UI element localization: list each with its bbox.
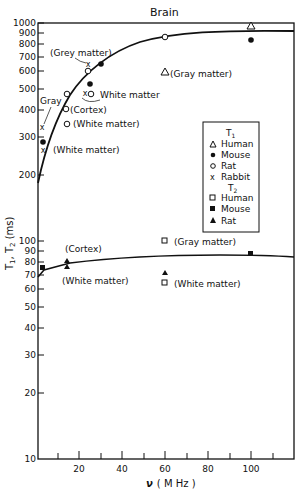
legend-open-circle-icon <box>211 164 216 169</box>
t1-human-marker <box>161 68 169 75</box>
legend-x-icon: x <box>210 173 215 182</box>
legend-open-square-icon <box>210 195 215 200</box>
y-tick-label: 200 <box>19 170 36 180</box>
legend: T1 Human Mouse Rat x Rabbit T2 Human Mou… <box>203 122 259 232</box>
t2-mouse-marker <box>248 251 253 256</box>
brain-relaxation-chart: Brain 1000 900 800 700 600 500 400 300 2… <box>0 0 306 499</box>
t1-rat-marker <box>85 68 91 74</box>
t1-rat-marker <box>88 91 94 97</box>
legend-item: Rat <box>221 216 237 226</box>
y-axis: 1000 900 800 700 600 500 400 300 200 100… <box>13 18 44 464</box>
y-tick-label: 50 <box>25 302 37 312</box>
annotation-white-matter: White matter <box>100 90 160 100</box>
y-tick-label: 300 <box>19 132 36 142</box>
t2-annotations: (Cortex) (White matter) (Gray matter) (W… <box>62 237 241 289</box>
annotation-white-matter-t2-human: (White matter) <box>174 279 241 289</box>
t2-rat-marker <box>64 258 70 263</box>
annotation-white-matter-rabbit: (White matter) <box>53 145 120 155</box>
t2-rat-marker <box>162 270 168 275</box>
y-tick-label: 30 <box>25 350 37 360</box>
t1-rabbit-marker: x <box>40 123 45 132</box>
annotation-cortex-t1: (Cortex) <box>70 105 107 115</box>
legend-item: Mouse <box>221 204 251 214</box>
t1-rabbit-marker: x <box>83 89 88 98</box>
x-tick-label: 100 <box>242 464 259 474</box>
annotation-white-matter-t2: (White matter) <box>62 276 129 286</box>
legend-filled-circle-icon <box>211 153 216 158</box>
annotation-grey-matter: (Grey matter) <box>50 48 112 58</box>
y-tick-label: 400 <box>19 105 36 115</box>
legend-item: Rat <box>221 161 237 171</box>
t1-rabbit-marker: x <box>41 146 46 155</box>
t2-human-marker <box>162 238 167 243</box>
legend-item: Rabbit <box>221 172 250 182</box>
annotation-gray: Gray <box>40 96 62 106</box>
x-tick-label: 80 <box>202 464 214 474</box>
y-tick-label: 10 <box>25 454 37 464</box>
x-tick-label: 20 <box>73 464 85 474</box>
legend-item: Human <box>221 139 253 149</box>
t1-rat-marker <box>162 34 168 40</box>
annotation-gray-matter-t2: (Gray matter) <box>174 237 236 247</box>
y-tick-label: 700 <box>19 52 36 62</box>
t1-mouse-marker <box>98 61 104 67</box>
t1-rat-marker <box>64 91 70 97</box>
y-tick-label: 70 <box>25 270 37 280</box>
y-tick-label: 500 <box>19 84 36 94</box>
t2-human-marker <box>162 280 167 285</box>
legend-item: Human <box>221 193 253 203</box>
t1-rat-marker <box>64 121 70 127</box>
y-tick-label: 100 <box>19 236 36 246</box>
annotation-gray-matter-human: (Gray matter) <box>170 69 232 79</box>
t2-mouse-marker <box>40 265 45 270</box>
t1-mouse-marker <box>87 81 93 87</box>
t1-rabbit-marker: x <box>86 60 91 69</box>
chart-title: Brain <box>150 6 179 19</box>
legend-filled-square-icon <box>210 206 215 211</box>
y-tick-label: 1000 <box>13 18 36 28</box>
y-tick-label: 900 <box>19 28 36 38</box>
x-tick-label: 60 <box>159 464 171 474</box>
y-axis-label: T1, T2 (ms) <box>4 216 17 271</box>
t1-mouse-marker <box>40 139 46 145</box>
t1-rat-marker <box>63 106 69 112</box>
annotation-cortex-t2: (Cortex) <box>65 244 102 254</box>
x-axis-label: ν( M Hz ) <box>146 478 196 489</box>
y-tick-label: 80 <box>25 257 37 267</box>
x-tick-label: 40 <box>116 464 128 474</box>
t1-mouse-marker <box>248 37 254 43</box>
y-tick-label: 60 <box>25 284 37 294</box>
y-tick-label: 20 <box>25 388 37 398</box>
annotation-white-matter-t1: (White matter) <box>73 119 140 129</box>
y-tick-label: 600 <box>19 66 36 76</box>
legend-item: Mouse <box>221 150 251 160</box>
x-axis: 20 40 60 80 100 <box>58 451 273 474</box>
y-tick-label: 800 <box>19 39 36 49</box>
y-tick-label: 40 <box>25 323 37 333</box>
y-tick-label: 90 <box>25 246 37 256</box>
